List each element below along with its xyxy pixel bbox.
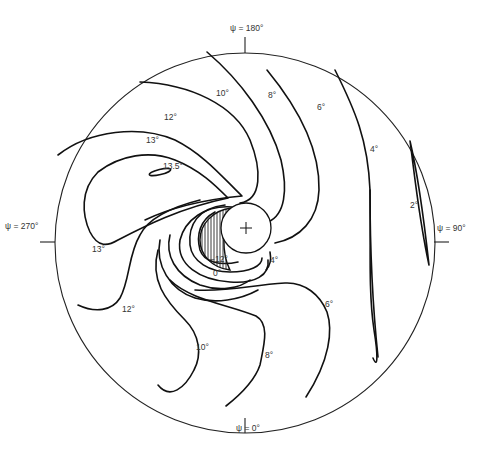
azimuth-label-left: ψ = 270°: [5, 221, 38, 231]
label-13-5: 13.5°: [163, 161, 183, 171]
contour-8-bottom: [170, 280, 265, 406]
contour-10-bottom: [156, 250, 199, 392]
label-12-top: 12°: [164, 112, 177, 122]
label-8-top: 8°: [268, 90, 276, 100]
label-13-top: 13°: [146, 135, 159, 145]
label-13-left: 13°: [92, 244, 105, 254]
label-8-bottom: 8°: [265, 350, 273, 360]
label-6-bottom: 6°: [325, 299, 333, 309]
azimuth-label-bottom: ψ = 0°: [236, 423, 260, 433]
polar-contour-diagram: ψ = 180° ψ = 0° ψ = 270° ψ = 90° 10° 8: [0, 0, 489, 449]
label-10-bottom: 10°: [196, 342, 209, 352]
azimuth-label-top: ψ = 180°: [230, 23, 263, 33]
azimuth-label-right: ψ = 90°: [437, 223, 466, 233]
label-neg12: −12°: [210, 254, 228, 264]
label-4: 4°: [370, 144, 378, 154]
label-4-center: 4°: [270, 255, 278, 265]
label-6-top: 6°: [317, 102, 325, 112]
label-2: 2°: [410, 200, 418, 210]
label-0: 0°: [213, 268, 221, 278]
label-12-left: 12°: [122, 304, 135, 314]
label-10-top: 10°: [216, 88, 229, 98]
